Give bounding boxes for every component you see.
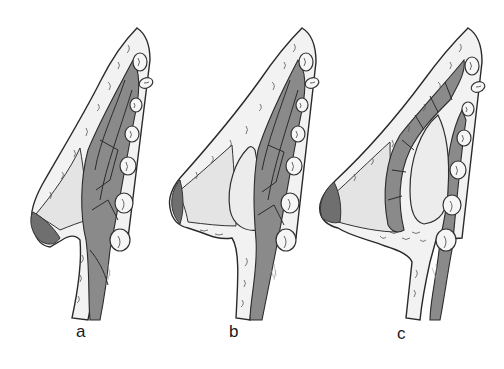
panel-a-illustration bbox=[31, 28, 154, 320]
panel-b-rib-4 bbox=[291, 126, 305, 142]
panel-c-label: c bbox=[397, 324, 406, 344]
panel-b-rib-1 bbox=[299, 53, 313, 71]
panel-a-label: a bbox=[76, 322, 85, 342]
panel-a-rib-3 bbox=[130, 98, 142, 112]
panel-b-rib-3 bbox=[296, 98, 308, 112]
panel-c-rib-5 bbox=[450, 161, 466, 179]
panel-c-illustration bbox=[320, 28, 487, 320]
panel-c-rib-4 bbox=[457, 130, 471, 146]
panel-a-rib-4 bbox=[125, 126, 139, 142]
panel-a-rib-5 bbox=[120, 157, 136, 175]
panel-c-rib-3 bbox=[462, 102, 474, 116]
panel-a-rib-1 bbox=[133, 53, 147, 71]
panel-c-rib-1 bbox=[465, 57, 479, 75]
panel-b-label: b bbox=[229, 322, 238, 342]
panel-b-rib-5 bbox=[286, 157, 302, 175]
panel-b-illustration bbox=[169, 28, 320, 320]
breast-implant-placement-figure bbox=[0, 0, 504, 369]
